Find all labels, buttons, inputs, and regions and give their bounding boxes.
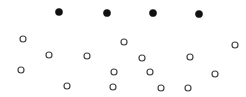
- filled-dot: [55, 8, 62, 15]
- open-dot: [158, 85, 164, 91]
- filled-dot: [195, 10, 202, 17]
- open-dots-group: [18, 36, 238, 91]
- open-dot: [64, 83, 70, 89]
- open-dot: [111, 69, 117, 75]
- open-dot: [18, 67, 24, 73]
- open-dot: [232, 42, 238, 48]
- dot-diagram: [0, 0, 246, 97]
- open-dot: [139, 55, 145, 61]
- open-dot: [46, 52, 52, 58]
- open-dot: [212, 71, 218, 77]
- filled-dots-group: [55, 8, 202, 17]
- open-dot: [147, 69, 153, 75]
- open-dot: [84, 53, 90, 59]
- dots-layer: [0, 0, 246, 97]
- open-dot: [110, 84, 116, 90]
- open-dot: [187, 54, 193, 60]
- open-dot: [121, 39, 127, 45]
- open-dot: [185, 85, 191, 91]
- filled-dot: [103, 9, 110, 16]
- filled-dot: [149, 9, 156, 16]
- open-dot: [20, 36, 26, 42]
